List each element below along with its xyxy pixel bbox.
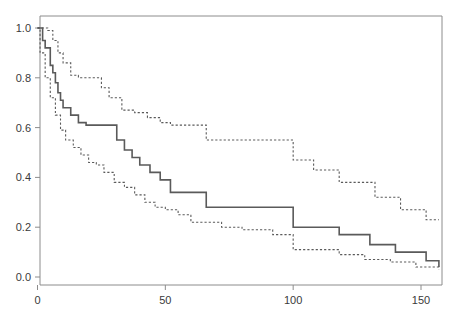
y-tick-label: 1.0 xyxy=(16,22,31,34)
y-tick-label: 0.6 xyxy=(16,122,31,134)
y-tick-label: 0.2 xyxy=(16,221,31,233)
x-tick-label: 50 xyxy=(159,294,171,306)
y-tick-label: 0.0 xyxy=(16,271,31,283)
plot-background xyxy=(0,0,461,319)
x-tick-label: 100 xyxy=(284,294,302,306)
y-tick-label: 0.4 xyxy=(16,171,31,183)
y-tick-label: 0.8 xyxy=(16,72,31,84)
x-tick-label: 150 xyxy=(412,294,430,306)
survival-plot-figure: 0.00.20.40.60.81.0 050100150 xyxy=(0,0,461,319)
x-tick-label: 0 xyxy=(34,294,40,306)
kaplan-meier-chart: 0.00.20.40.60.81.0 050100150 xyxy=(0,0,461,319)
